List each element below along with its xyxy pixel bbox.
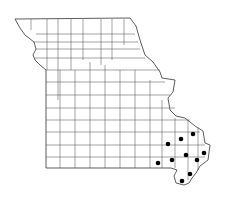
marker-dot xyxy=(191,132,196,137)
marker-dot xyxy=(188,172,193,177)
marker-dot xyxy=(179,137,184,142)
missouri-county-map xyxy=(0,0,226,197)
occurrence-markers xyxy=(156,132,207,184)
marker-dot xyxy=(202,151,207,156)
marker-dot xyxy=(156,161,161,166)
county-lines xyxy=(31,19,205,180)
marker-dot xyxy=(195,158,200,163)
marker-dot xyxy=(184,153,189,158)
marker-dot xyxy=(170,158,175,163)
marker-dot xyxy=(166,142,171,147)
marker-dot xyxy=(180,179,185,184)
state-outline xyxy=(15,18,210,185)
